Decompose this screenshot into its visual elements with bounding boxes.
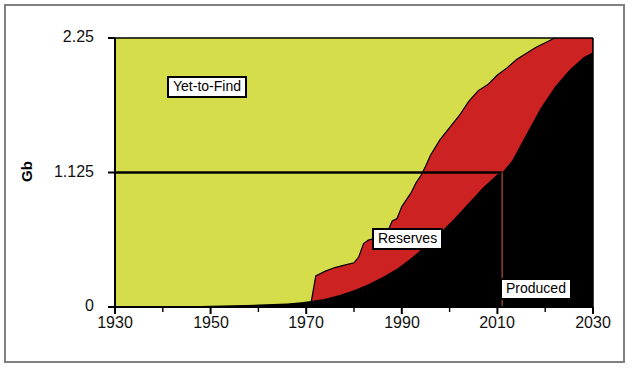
chart-root: Gb 2.25 1.125 0 1930 1950 1970 1990 2010… bbox=[0, 0, 633, 371]
x-axis-ticks bbox=[115, 307, 593, 314]
annotation-reserves: Reserves bbox=[372, 228, 443, 250]
y-axis-ticks bbox=[108, 38, 115, 307]
annotation-produced: Produced bbox=[500, 278, 572, 300]
chart-plot-area bbox=[0, 0, 633, 371]
annotation-yet-to-find: Yet-to-Find bbox=[167, 76, 247, 98]
